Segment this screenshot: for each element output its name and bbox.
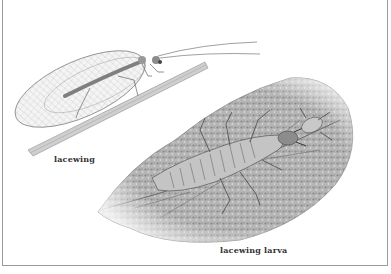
lacewing-label: lacewing	[54, 154, 95, 164]
lacewing-illustration	[0, 0, 391, 274]
lacewing-larva-label: lacewing larva	[220, 245, 287, 255]
